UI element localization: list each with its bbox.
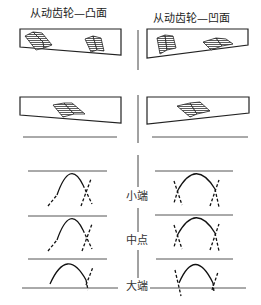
concave-tooth-box-middle [147, 97, 249, 137]
concave-tooth-box-top [147, 29, 248, 58]
convex-profile-toe [28, 171, 107, 206]
concave-profile-heel [150, 259, 246, 296]
contact-patch-toe [157, 35, 176, 54]
convex-profile-middle [28, 216, 107, 251]
concave-profile-middle [155, 215, 233, 251]
contact-patch-center [177, 102, 210, 117]
position-label-middle: 中点 [126, 234, 148, 248]
contact-patch-heel [85, 36, 104, 52]
convex-tooth-box-top [20, 29, 121, 55]
contact-patch-heel [203, 38, 233, 50]
gear-contact-pattern-diagram [0, 0, 261, 305]
position-label-heel: 大端 [126, 280, 148, 294]
convex-profile-heel [22, 259, 118, 290]
contact-patch-center [53, 103, 85, 117]
position-label-toe: 小端 [126, 190, 148, 204]
convex-tooth-box-middle [20, 97, 121, 137]
concave-profile-toe [155, 171, 233, 207]
